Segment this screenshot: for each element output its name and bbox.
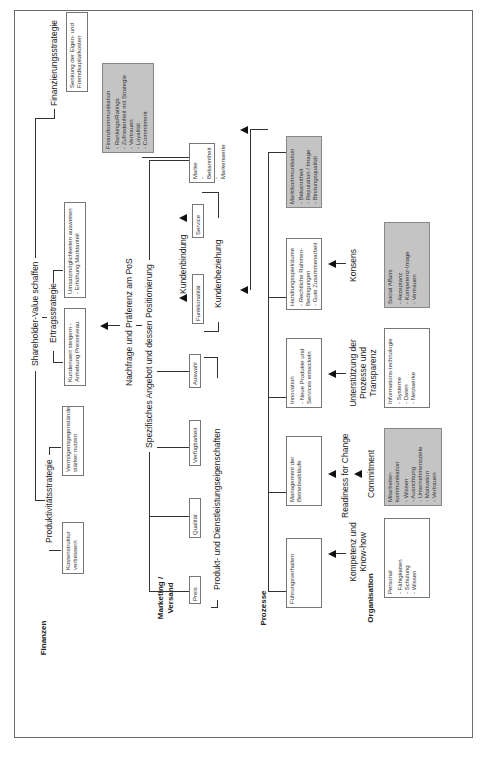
box-item: - Bekanntheit: [298, 140, 305, 204]
strategy-produktivitaet: Produktivitätsstrategie: [44, 459, 54, 543]
box-social-affairs: Social Affairs - Akzeptanz - Kompetenz-I…: [384, 222, 430, 308]
box-title: Mitarbeiter-kommunikation: [387, 432, 401, 502]
box-title: Informations-technologie: [387, 332, 394, 404]
box-item: - Commitment: [142, 67, 149, 149]
box-preis: Preis: [189, 576, 201, 604]
box-title: Führungsverhalten: [289, 542, 296, 604]
box-text: Kundenwert steigern - Anhebung Preisnive…: [67, 312, 81, 382]
process-bus-line: [268, 152, 269, 592]
box-item: - Kompetenz-Image: [404, 226, 411, 304]
connector-line: [42, 317, 47, 318]
label-eigenschaften: Produkt- und Dienstleistungseigenschafte…: [212, 428, 222, 590]
box-item: - Netzwerke: [410, 332, 417, 404]
connector-line: [35, 118, 46, 119]
box-title: Social Affairs: [387, 226, 394, 304]
arrow-up-icon: [100, 322, 108, 330]
connector-line: [218, 192, 219, 218]
connector-line: [53, 270, 63, 271]
connector-line: [54, 109, 55, 119]
box-title: Innovation: [289, 342, 296, 404]
box-title: Marke: [192, 147, 199, 179]
connector-line: [217, 600, 218, 608]
connector-line: [250, 129, 268, 130]
box-item: - Rankings/Ratings: [114, 67, 121, 149]
connector-line: [250, 130, 251, 290]
box-text: Service: [195, 207, 202, 235]
box-informationstechnologie: Informations-technologie - Systeme - Dat…: [384, 328, 430, 408]
label-kompetenz: Kompetenz und Know-how: [348, 521, 368, 583]
connector-line: [53, 271, 54, 283]
section-label-marketing: Marketing / Versand: [156, 568, 176, 628]
connector-line: [268, 591, 286, 592]
box-item: - Loyalität: [135, 67, 142, 149]
box-text: Kostenstruktur verbessern: [65, 526, 79, 570]
connector-line: [149, 591, 189, 592]
connector-line: [268, 397, 286, 398]
box-item: - Motivation: [424, 432, 431, 502]
box-item: - Ausrichtung: [410, 432, 417, 502]
connector-line: [49, 447, 61, 448]
box-title: Marktkommunikation: [289, 140, 296, 204]
arrow-up-icon: [328, 550, 336, 558]
box-umsatzmoeglichkeiten: Umsatzmöglichkeiten ausweiten - Erhöhung…: [64, 202, 86, 298]
box-item: - Bekanntheit: [199, 147, 213, 179]
arrow-up-icon: [328, 260, 336, 268]
arrow-up-icon: [240, 286, 248, 294]
box-item: - Schulung: [404, 522, 411, 594]
box-text: Preis: [192, 579, 199, 601]
connector-line: [49, 550, 61, 551]
label-kundenbindung: Kundenbindung: [178, 234, 188, 294]
box-item: - Gute Zusammenarbeit: [312, 242, 319, 306]
box-handlungsspielraeume: Handlungsspielräume - Rechtliche Rahmen-…: [286, 238, 322, 310]
label-spezifisches-angebot: Spezifisches Angebot und dessen Position…: [144, 264, 154, 448]
box-text: Verfügbarkeit: [192, 423, 199, 463]
box-kundenwert: Kundenwert steigern - Anhebung Preisnive…: [64, 308, 86, 386]
box-item: - Vertrauen: [431, 432, 438, 502]
box-item: - Reputation / Image: [305, 140, 312, 204]
connector-line: [149, 160, 150, 260]
box-title: Finanzkommunikation: [105, 67, 112, 149]
connector-line: [204, 331, 218, 332]
box-service: Service: [192, 204, 204, 238]
box-mitarbeiterkommunikation: Mitarbeiter-kommunikation - Wissen - Aus…: [384, 428, 442, 506]
box-text: Vermögensgegenstände stärker nutzen: [65, 410, 79, 472]
box-title: Personal: [387, 522, 394, 594]
box-item: - Zufriedenheit mit Strategie: [121, 67, 128, 149]
box-kapitalkosten: Senkung der Eigen- und Fremdkapitalkoste…: [66, 12, 88, 92]
arrow-up-icon: [354, 470, 362, 478]
box-management-betriebsablaeufe: Management der Betriebsabläufe: [286, 436, 322, 506]
label-kundenbeziehung: Kundenbeziehung: [213, 239, 223, 308]
connector-line: [35, 371, 36, 501]
box-item: - Bindungsqualität: [312, 140, 319, 204]
box-text: Auswahl: [192, 357, 199, 385]
box-item: - Wissen: [411, 522, 418, 594]
strategy-ertrag: Ertragsstrategie: [48, 283, 58, 343]
connector-line: [136, 325, 142, 326]
label-readiness: Readiness for Change: [340, 433, 350, 518]
box-innovation: Innovation - Neue Produkte und Services …: [286, 338, 322, 408]
box-personal: Personal - Fähigkeiten - Schulung - Wiss…: [384, 518, 430, 598]
box-fuehrungsverhalten: Führungsverhalten: [286, 538, 322, 608]
connector-line: [268, 297, 286, 298]
connector-line: [35, 118, 36, 258]
section-label-finanzen: Finanzen: [39, 598, 49, 678]
box-item: - Vertrauen: [128, 67, 135, 149]
box-text: Funktionalität: [195, 277, 202, 321]
box-title: Management der Betriebsabläufe: [289, 440, 303, 502]
connector-line: [149, 516, 189, 517]
connector-line: [218, 322, 219, 332]
arrow-up-icon: [328, 470, 336, 478]
connector-line: [268, 492, 286, 493]
goal-shareholder-value: Shareholder-Value schaffen: [30, 261, 40, 366]
box-item: - Markenwerte: [213, 147, 227, 179]
box-finanzkommunikation: Finanzkommunikation - Rankings/Ratings -…: [102, 63, 154, 153]
box-item: - Neue Produkte und Services entwickeln: [299, 342, 313, 404]
connector-line: [336, 373, 346, 374]
box-marktkommunikation: Marktkommunikation - Bekanntheit - Reput…: [286, 136, 322, 208]
connector-line: [336, 263, 346, 264]
connector-line: [108, 325, 120, 326]
connector-line: [157, 371, 189, 372]
box-marke: Marke - Bekanntheit - Markenwerte: [189, 143, 215, 183]
box-text: Senkung der Eigen- und Fremdkapitalkoste…: [69, 16, 83, 88]
arrow-up-icon: [179, 214, 187, 222]
